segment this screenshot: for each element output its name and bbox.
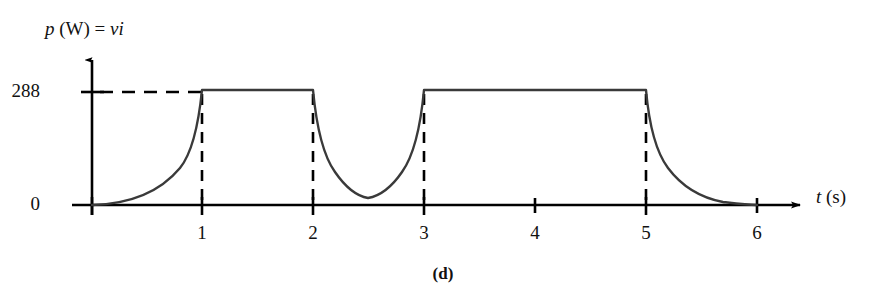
x-tick-label-1: 1 — [182, 222, 222, 244]
x-tick-label-3: 3 — [404, 222, 444, 244]
plot-canvas — [0, 0, 886, 304]
power-curve — [92, 90, 757, 205]
vertical-dashed-lines — [202, 94, 646, 205]
y-axis-title-symbol: p — [45, 18, 55, 39]
y-axis-title: p (W) = vi — [45, 18, 124, 40]
power-waveform-figure: p (W) = vi t (s) 288 0 1 2 3 4 5 6 (d) — [0, 0, 886, 304]
y-axis-title-unit: (W) — [59, 18, 90, 39]
figure-caption: (d) — [0, 264, 886, 284]
y-axis-title-equals: = — [95, 18, 106, 39]
y-axis-title-product: vi — [110, 18, 124, 39]
x-axis-title: t (s) — [816, 186, 846, 208]
x-tick-label-6: 6 — [737, 222, 777, 244]
x-axis-title-unit: (s) — [826, 186, 846, 207]
y-tick-label-288: 288 — [0, 80, 40, 102]
x-tick-label-5: 5 — [626, 222, 666, 244]
y-tick-label-0: 0 — [0, 193, 40, 215]
x-tick-label-4: 4 — [515, 222, 555, 244]
x-tick-label-2: 2 — [293, 222, 333, 244]
